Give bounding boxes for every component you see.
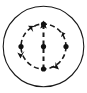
dot-top xyxy=(41,21,46,26)
dot-right xyxy=(63,44,68,49)
dot-left xyxy=(18,44,23,49)
circular-motion-diagram xyxy=(0,0,87,93)
figure-container xyxy=(0,0,87,93)
dot-center xyxy=(41,44,46,49)
dot-bottom xyxy=(41,66,46,71)
